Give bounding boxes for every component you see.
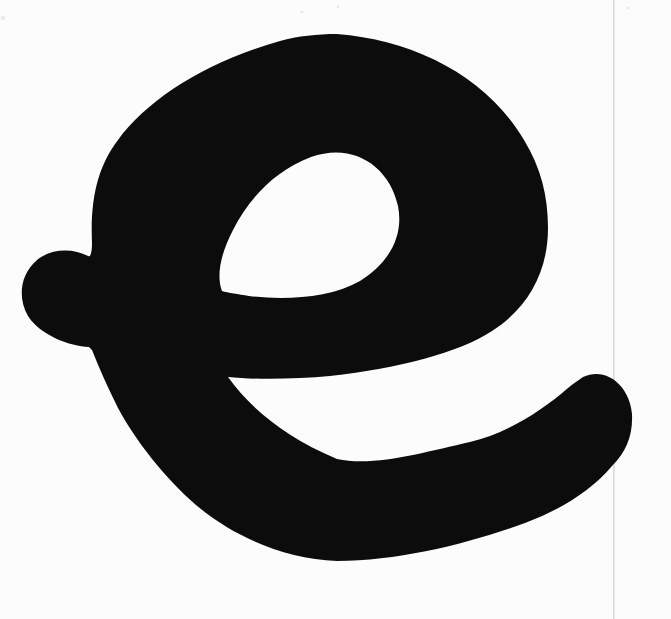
letter-e-scan-svg	[0, 0, 671, 619]
paper-speckle	[627, 7, 630, 10]
scan-line-artifact	[613, 0, 615, 619]
paper-speckle	[1, 16, 5, 20]
scanned-letter-image: e	[0, 0, 671, 619]
paper-speckle	[337, 6, 340, 9]
paper-speckle	[300, 10, 303, 13]
